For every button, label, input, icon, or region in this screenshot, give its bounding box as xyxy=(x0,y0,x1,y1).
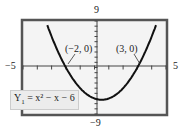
graph-window xyxy=(0,0,185,130)
root2-label: (3, 0) xyxy=(116,44,138,54)
equation-body: = x² − x − 6 xyxy=(25,92,75,103)
root1-label: (−2, 0) xyxy=(65,44,92,54)
xmax-label: 5 xyxy=(173,61,178,71)
ymax-label: 9 xyxy=(94,5,99,15)
equation-label: Y1 = x² − x − 6 xyxy=(10,90,79,110)
ymin-label: −9 xyxy=(90,118,101,128)
xmin-label: −5 xyxy=(5,61,16,71)
